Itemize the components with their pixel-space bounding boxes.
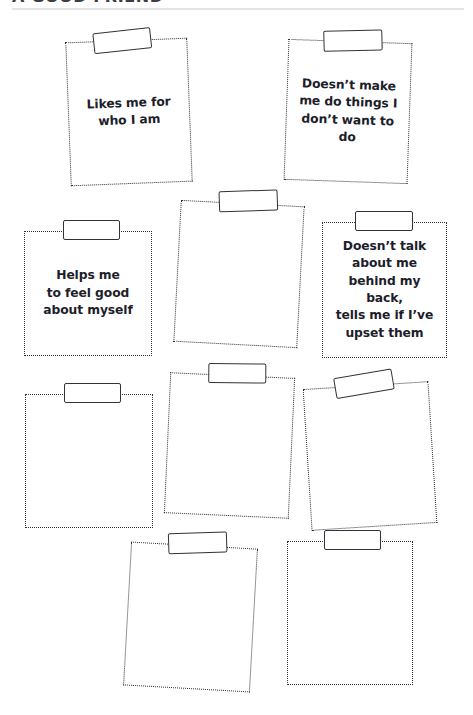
note-card[interactable] [287, 541, 413, 685]
tape-strip-icon [355, 211, 413, 231]
note-card-text: Helps me to feel good about myself [37, 267, 138, 319]
note-card-text: Likes me for who I am [80, 93, 177, 132]
tape-strip-icon [208, 363, 266, 384]
note-card[interactable]: Doesn’t talk about me behind my back, te… [322, 222, 447, 358]
note-card[interactable] [25, 394, 153, 528]
note-card-text: Doesn’t make me do things I don’t want t… [286, 74, 410, 148]
tape-strip-icon [323, 29, 383, 52]
worksheet-page: A GOOD FRIEND Likes me for who I am Does… [0, 0, 473, 715]
note-card-body[interactable] [173, 200, 304, 348]
page-header: A GOOD FRIEND [0, 0, 473, 16]
note-card-body[interactable]: Helps me to feel good about myself [24, 231, 152, 356]
note-card[interactable] [164, 372, 295, 519]
note-card-body[interactable] [303, 381, 438, 531]
note-card-body[interactable] [123, 542, 258, 693]
note-card[interactable]: Helps me to feel good about myself [24, 231, 152, 356]
note-card-body[interactable]: Likes me for who I am [65, 38, 192, 187]
note-card-text [185, 617, 197, 618]
tape-strip-icon [168, 531, 228, 554]
tape-strip-icon [324, 530, 381, 550]
tape-strip-icon [64, 383, 121, 403]
note-card-body[interactable]: Doesn’t make me do things I don’t want t… [284, 39, 413, 184]
note-card-body[interactable] [164, 372, 295, 519]
note-card-text [233, 274, 245, 275]
note-card-text: Doesn’t talk about me behind my back, te… [323, 238, 446, 343]
tape-strip-icon [63, 220, 120, 240]
note-card[interactable]: Doesn’t make me do things I don’t want t… [284, 39, 413, 184]
header-divider [12, 8, 464, 10]
note-card-body[interactable] [25, 394, 153, 528]
tape-strip-icon [218, 189, 278, 212]
note-card-body[interactable] [287, 541, 413, 685]
note-card[interactable] [173, 200, 304, 348]
note-card[interactable]: Likes me for who I am [65, 38, 192, 187]
note-card[interactable] [303, 381, 438, 531]
note-card-text [364, 456, 376, 457]
note-card-body[interactable]: Doesn’t talk about me behind my back, te… [322, 222, 447, 358]
page-title: A GOOD FRIEND [12, 0, 164, 6]
note-card-text [224, 445, 236, 446]
note-card[interactable] [123, 542, 258, 693]
